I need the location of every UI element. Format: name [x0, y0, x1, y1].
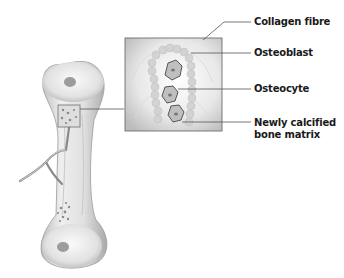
label-newly-calcified: Newly calcified: [254, 117, 336, 128]
label-collagen-fibre: Collagen fibre: [254, 16, 330, 27]
label-bone-matrix: bone matrix: [254, 129, 320, 140]
distal-ossification-centre: [57, 242, 69, 252]
magnified-inset: [125, 38, 222, 131]
proximal-ossification-centre: [64, 77, 76, 87]
leader-collagen: [203, 22, 251, 40]
long-bone: [20, 61, 107, 268]
distal-epiphysis: [42, 224, 102, 268]
magnified-region-box: [58, 105, 80, 127]
label-osteocyte: Osteocyte: [254, 83, 309, 94]
label-osteoblast: Osteoblast: [254, 47, 313, 58]
